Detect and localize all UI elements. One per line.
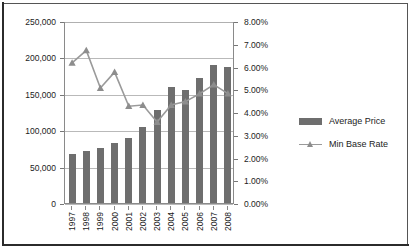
left-axis-tickmark <box>60 204 64 205</box>
right-axis-tick-label: 2.00% <box>244 154 268 164</box>
right-axis-tickmark <box>234 45 238 46</box>
x-axis-tickmark <box>71 206 72 210</box>
x-axis-tickmark <box>114 206 115 210</box>
line-series-min-base-rate <box>65 22 235 204</box>
x-axis-tickmark <box>128 206 129 210</box>
x-axis-tickmark <box>184 206 185 210</box>
plot-area <box>64 22 234 204</box>
x-axis-tickmark <box>156 206 157 210</box>
x-axis-tickmark <box>213 206 214 210</box>
line-marker-triangle <box>83 47 90 54</box>
right-axis-tickmark <box>234 113 238 114</box>
x-axis-tickmark <box>199 206 200 210</box>
x-axis-tickmark <box>142 206 143 210</box>
left-axis-tick-label: 100,000 <box>25 126 56 136</box>
right-axis-tick-label: 7.00% <box>244 40 268 50</box>
left-axis-tick-labels: 050,000100,000150,000200,000250,000 <box>4 4 62 244</box>
legend-label-average-price: Average Price <box>329 116 385 126</box>
legend-bar-swatch-icon <box>299 118 322 125</box>
chart-frame: 050,000100,000150,000200,000250,000 0.00… <box>3 3 408 245</box>
left-axis-tickmark <box>60 168 64 169</box>
x-axis-label: 2003 <box>152 212 162 231</box>
x-axis-label: 2006 <box>195 212 205 231</box>
legend-line-marker-icon <box>299 140 322 149</box>
chart-legend: Average Price Min Base Rate <box>299 116 388 162</box>
right-axis-tickmark <box>234 90 238 91</box>
right-axis-tick-label: 0.00% <box>244 199 268 209</box>
legend-entry-average-price: Average Price <box>299 116 388 126</box>
right-axis-tickmark <box>234 68 238 69</box>
x-axis-tickmark <box>227 206 228 210</box>
right-axis-tickmark <box>234 22 238 23</box>
left-axis-tickmark <box>60 95 64 96</box>
x-axis-label: 2004 <box>166 212 176 231</box>
line-marker-triangle <box>196 90 203 96</box>
right-axis-tick-label: 3.00% <box>244 131 268 141</box>
x-axis-label: 1998 <box>81 212 91 231</box>
right-axis-tick-label: 6.00% <box>244 63 268 73</box>
x-axis-label: 1997 <box>67 212 77 231</box>
right-axis-tickmark <box>234 136 238 137</box>
right-axis-tick-label: 5.00% <box>244 85 268 95</box>
left-axis-tick-label: 250,000 <box>25 17 56 27</box>
x-axis-label: 2008 <box>223 212 233 231</box>
legend-entry-min-base-rate: Min Base Rate <box>299 139 388 149</box>
x-axis-label: 2005 <box>180 212 190 231</box>
right-axis-tickmark <box>234 159 238 160</box>
left-axis-tickmark <box>60 22 64 23</box>
right-axis-tick-label: 4.00% <box>244 108 268 118</box>
x-axis-label: 2007 <box>209 212 219 231</box>
x-axis-tickmark <box>85 206 86 210</box>
x-axis-tickmark <box>170 206 171 210</box>
line-marker-triangle <box>224 90 231 96</box>
left-axis-tickmark <box>60 131 64 132</box>
x-axis-category-labels: 1997199819992000200120022003200420052006… <box>64 206 234 250</box>
left-axis-tick-label: 50,000 <box>30 163 56 173</box>
right-axis-tick-labels: 0.00%1.00%2.00%3.00%4.00%5.00%6.00%7.00%… <box>236 4 292 244</box>
right-axis-tickmark <box>234 204 238 205</box>
x-axis-label: 2001 <box>124 212 134 231</box>
gridline <box>65 204 233 205</box>
x-axis-label: 2000 <box>110 212 120 231</box>
legend-label-min-base-rate: Min Base Rate <box>329 139 388 149</box>
right-axis-tickmark <box>234 181 238 182</box>
right-axis-tick-label: 8.00% <box>244 17 268 27</box>
line-marker-triangle <box>210 81 217 87</box>
line-marker-triangle <box>111 69 118 75</box>
x-axis-label: 1999 <box>95 212 105 231</box>
left-axis-tickmark <box>60 58 64 59</box>
right-axis-tick-label: 1.00% <box>244 176 268 186</box>
x-axis-tickmark <box>99 206 100 210</box>
left-axis-tick-label: 200,000 <box>25 53 56 63</box>
left-axis-tick-label: 150,000 <box>25 90 56 100</box>
line-path <box>72 50 228 122</box>
line-marker-triangle <box>182 98 189 105</box>
left-axis-tick-label: 0 <box>51 199 56 209</box>
x-axis-label: 2002 <box>138 212 148 231</box>
